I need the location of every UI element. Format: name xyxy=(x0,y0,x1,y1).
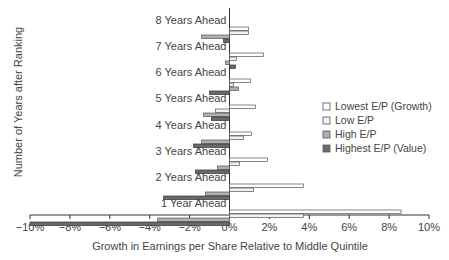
legend-label: Highest E/P (Value) xyxy=(335,142,426,154)
legend-swatch xyxy=(323,131,330,138)
bar-high-e-p xyxy=(226,61,230,65)
x-tick-label: 2% xyxy=(261,221,277,233)
bar-highest-e-p-value- xyxy=(164,196,230,200)
x-tick-label: 6% xyxy=(341,221,357,233)
x-tick-label: 8% xyxy=(381,221,397,233)
bar-high-e-p xyxy=(202,35,230,39)
chart-container: −10%−8%−6%−4%−2%0%2%4%6%8%10%1 Year Ahea… xyxy=(0,0,449,260)
bar-lowest-e-p-growth- xyxy=(230,184,304,188)
legend-swatch xyxy=(323,103,330,110)
bar-high-e-p xyxy=(158,218,230,222)
legend-swatch xyxy=(323,145,330,152)
bar-highest-e-p-value- xyxy=(212,117,230,121)
bar-lowest-e-p-growth- xyxy=(230,132,252,136)
y-axis-label: Number of Years after Ranking xyxy=(12,22,24,182)
bar-low-e-p xyxy=(216,109,230,113)
bar-highest-e-p-value- xyxy=(230,65,236,69)
bar-lowest-e-p-growth- xyxy=(230,105,256,109)
category-label: 8 Years Ahead xyxy=(156,14,227,26)
x-axis-label: Growth in Earnings per Share Relative to… xyxy=(40,240,420,252)
bar-lowest-e-p-growth- xyxy=(230,27,249,31)
bar-low-e-p xyxy=(230,57,237,61)
bar-high-e-p xyxy=(206,192,230,196)
category-label: 7 Years Ahead xyxy=(156,40,227,52)
bar-high-e-p xyxy=(204,113,230,117)
bar-low-e-p xyxy=(230,214,304,218)
bar-low-e-p xyxy=(230,162,240,166)
bar-high-e-p xyxy=(230,87,239,91)
bar-highest-e-p-value- xyxy=(194,144,230,148)
bar-lowest-e-p-growth- xyxy=(230,158,268,162)
x-tick-label: 10% xyxy=(418,221,440,233)
x-tick-label: 4% xyxy=(301,221,317,233)
bar-high-e-p xyxy=(202,140,230,144)
legend-label: Lowest E/P (Growth) xyxy=(335,100,432,112)
bar-lowest-e-p-growth- xyxy=(230,79,251,83)
bar-highest-e-p-value- xyxy=(224,39,230,43)
bar-low-e-p xyxy=(230,83,234,87)
bar-low-e-p xyxy=(230,136,244,140)
bar-low-e-p xyxy=(230,31,249,35)
legend-swatch xyxy=(323,117,330,124)
bar-highest-e-p-value- xyxy=(210,91,230,95)
bar-highest-e-p-value- xyxy=(30,222,230,226)
chart-svg: −10%−8%−6%−4%−2%0%2%4%6%8%10%1 Year Ahea… xyxy=(0,0,449,260)
category-label: 6 Years Ahead xyxy=(156,66,227,78)
bar-high-e-p xyxy=(218,166,230,170)
bar-lowest-e-p-growth- xyxy=(230,53,264,57)
bar-highest-e-p-value- xyxy=(196,170,230,174)
legend-label: High E/P xyxy=(335,128,376,140)
bar-lowest-e-p-growth- xyxy=(230,210,402,214)
legend-label: Low E/P xyxy=(335,114,374,126)
bar-low-e-p xyxy=(230,188,254,192)
